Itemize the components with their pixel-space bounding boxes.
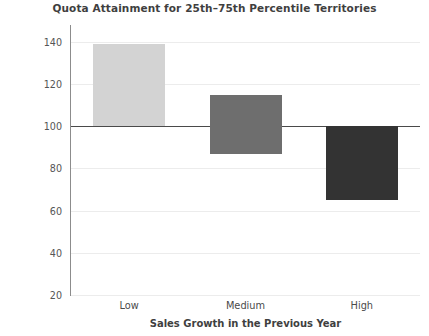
x-axis-label: Sales Growth in the Previous Year: [71, 318, 420, 329]
plot-area: [71, 25, 420, 295]
x-tick-label-medium: Medium: [226, 300, 265, 311]
x-tick-label-high: High: [351, 300, 374, 311]
y-tick-label: 100: [22, 121, 62, 132]
bar-chart: Quota Attainment for 25th–75th Percentil…: [0, 0, 429, 336]
y-tick-label: 60: [22, 205, 62, 216]
y-tick-label: 40: [22, 247, 62, 258]
x-tick-label-low: Low: [120, 300, 139, 311]
bar-medium: [210, 95, 282, 154]
bar-low: [93, 44, 165, 126]
y-tick-label: 140: [22, 36, 62, 47]
gridline: [71, 295, 420, 296]
y-tick-label: 20: [22, 290, 62, 301]
chart-title: Quota Attainment for 25th–75th Percentil…: [0, 2, 429, 14]
bar-high: [326, 126, 398, 200]
y-tick-label: 120: [22, 79, 62, 90]
y-tick-label: 80: [22, 163, 62, 174]
bars-layer: [71, 25, 420, 295]
